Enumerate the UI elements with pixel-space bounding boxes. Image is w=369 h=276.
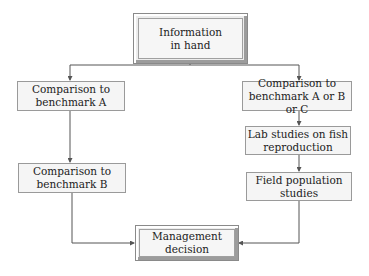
node-lab-studies: Lab studies on fish reproduction [245,126,351,155]
node-information-in-hand: Information in hand [133,13,248,64]
node-benchmark-a: Comparison to benchmark A [17,81,125,111]
node-label-line2: studies [280,187,318,200]
node-label-line1: Comparison to [32,83,110,96]
node-field-population-studies: Field population studies [246,172,352,201]
node-benchmark-a-b-c: Comparison to benchmark A or B or C [242,81,352,111]
node-label-line2: reproduction [263,141,332,154]
node-label-line1: Field population [255,174,342,187]
node-label-line2: benchmark B [37,178,108,191]
node-label-line2: benchmark A [36,96,107,109]
node-label-line1: Management [152,230,222,243]
node-management-decision: Management decision [135,225,239,261]
node-label-line2: decision [165,243,209,256]
node-label-line1: Comparison to [33,165,111,178]
node-benchmark-b: Comparison to benchmark B [18,163,126,193]
node-label-line1: Comparison to [258,77,336,90]
node-label-line1: Lab studies on fish [248,128,348,141]
node-label-line2: benchmark A or B or C [243,90,351,116]
node-label-line2: in hand [171,39,211,52]
node-label-line1: Information [159,26,222,39]
